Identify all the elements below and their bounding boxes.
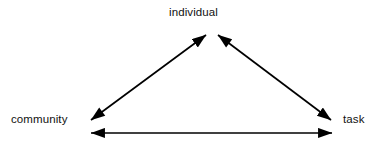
edge-community-individual xyxy=(91,35,206,120)
node-label-community: community xyxy=(11,113,68,126)
node-label-individual: individual xyxy=(0,6,387,19)
activity-triangle-diagram: individual community task xyxy=(0,0,387,150)
edge-individual-task xyxy=(218,35,331,120)
triangle-edges-canvas xyxy=(0,0,387,150)
node-label-task: task xyxy=(343,113,365,126)
